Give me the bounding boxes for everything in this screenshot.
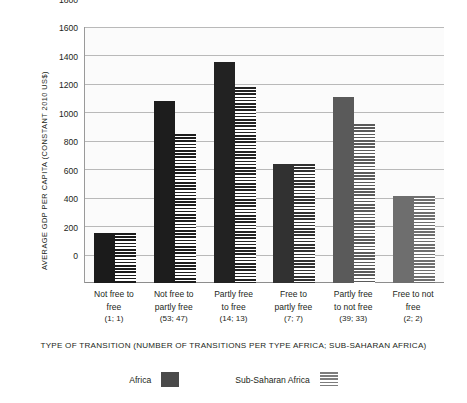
bar (393, 196, 414, 283)
x-axis-label-line: Partly free (319, 288, 387, 301)
y-axis-tick-labels: 020040060080010001200140016001800 (0, 0, 84, 256)
x-axis-label-line: to free (200, 301, 268, 314)
x-axis-label-line: Partly free (200, 288, 268, 301)
legend-item: Sub-Saharan Africa (235, 372, 338, 387)
bar-chart: AVERAGE GDP PER CAPITA (CONSTANT 2010 US… (0, 0, 467, 403)
x-axis-label-line: Free to (260, 288, 328, 301)
bar (354, 124, 375, 283)
bar (214, 62, 235, 283)
y-axis-tick-label: 1400 (59, 52, 78, 62)
y-axis-tick-label: 400 (64, 194, 78, 204)
gridline (85, 169, 444, 170)
x-axis-category-label: Partly freeto free(14; 13) (200, 288, 268, 326)
bar (294, 164, 315, 283)
x-axis-label-line: (39; 33) (319, 313, 387, 326)
gridline (85, 84, 444, 85)
y-axis-tick-label: 1600 (59, 23, 78, 33)
legend-item: Africa (129, 372, 179, 387)
legend-swatch (320, 372, 338, 387)
y-axis-tick-label: 800 (64, 137, 78, 147)
bar (154, 101, 175, 283)
y-axis-tick-label: 200 (64, 223, 78, 233)
bar (414, 196, 435, 283)
x-axis-label-line: partly free (260, 301, 328, 314)
x-axis-category-label: Free to notfree(2; 2) (379, 288, 447, 326)
x-axis-label-line: (7; 7) (260, 313, 328, 326)
bar (235, 87, 256, 283)
x-axis-label-line: Free to not (379, 288, 447, 301)
legend-label: Sub-Saharan Africa (235, 375, 310, 385)
x-axis-category-label: Not free topartly free(53; 47) (140, 288, 208, 326)
axis-baseline (85, 282, 444, 283)
plot-area (84, 27, 444, 283)
x-axis-label-line: Not free to (80, 288, 148, 301)
x-axis-category-label: Partly freeto not free(39; 33) (319, 288, 387, 326)
x-axis-title: TYPE OF TRANSITION (NUMBER OF TRANSITION… (0, 341, 467, 350)
y-axis-tick-label: 1000 (59, 109, 78, 119)
gridline (85, 226, 444, 227)
legend-swatch (161, 372, 179, 387)
bar (115, 233, 136, 283)
x-axis-label-line: (1; 1) (80, 313, 148, 326)
x-axis-label-line: (14; 13) (200, 313, 268, 326)
gridline (85, 27, 444, 28)
gridline (85, 198, 444, 199)
gridline (85, 141, 444, 142)
x-axis-label-line: free (379, 301, 447, 314)
bar (333, 97, 354, 283)
y-axis-tick-label: 0 (73, 251, 78, 261)
x-axis-category-label: Free topartly free(7; 7) (260, 288, 328, 326)
x-axis-label-line: (2; 2) (379, 313, 447, 326)
chart-legend: AfricaSub-Saharan Africa (0, 372, 467, 387)
gridline (85, 55, 444, 56)
y-axis-tick-label: 600 (64, 166, 78, 176)
x-axis-label-line: Not free to (140, 288, 208, 301)
x-axis-label-line: to not free (319, 301, 387, 314)
gridline (85, 112, 444, 113)
legend-label: Africa (129, 375, 151, 385)
x-axis-label-line: partly free (140, 301, 208, 314)
y-axis-tick-label: 1800 (59, 0, 78, 5)
x-axis-category-label: Not free tofree(1; 1) (80, 288, 148, 326)
x-axis-label-line: (53; 47) (140, 313, 208, 326)
bar (175, 134, 196, 283)
gridline (85, 255, 444, 256)
bar (94, 233, 115, 283)
bar (273, 164, 294, 283)
x-axis-category-labels: Not free tofree(1; 1)Not free topartly f… (84, 288, 443, 336)
y-axis-tick-label: 1200 (59, 80, 78, 90)
x-axis-label-line: free (80, 301, 148, 314)
